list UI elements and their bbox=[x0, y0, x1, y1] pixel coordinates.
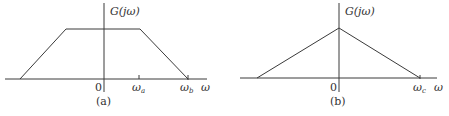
tick-label-omega-b: ωb bbox=[180, 81, 194, 95]
x-axis-label-a: ω bbox=[201, 81, 210, 94]
caption-b: (b) bbox=[330, 95, 346, 108]
y-axis-label-a: G(jω) bbox=[110, 5, 140, 18]
figure-a: G(jω) 0 ωa ωb ω (a) bbox=[5, 3, 210, 108]
origin-label-a: 0 bbox=[95, 81, 102, 94]
caption-a: (a) bbox=[96, 95, 111, 108]
origin-label-b: 0 bbox=[330, 81, 337, 94]
x-axis-label-b: ω bbox=[434, 81, 443, 94]
tick-label-omega-c: ωc bbox=[413, 81, 426, 95]
figure-canvas: G(jω) 0 ωa ωb ω (a) G(jω) 0 ωc ω (b) bbox=[0, 0, 449, 116]
figure-b: G(jω) 0 ωc ω (b) bbox=[240, 3, 443, 108]
y-axis-label-b: G(jω) bbox=[345, 5, 375, 18]
tick-label-omega-a: ωa bbox=[132, 81, 145, 95]
